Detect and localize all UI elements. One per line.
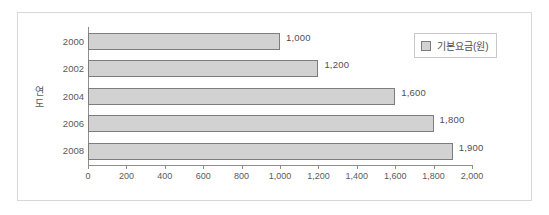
x-axis-tick-label: 1,000	[269, 171, 292, 181]
bar-value-label: 1,000	[286, 32, 311, 43]
bar[interactable]	[88, 115, 434, 132]
category-tick-label: 2004	[44, 91, 84, 102]
x-axis-tick	[242, 165, 243, 169]
x-axis-tick-label: 200	[119, 171, 134, 181]
category-tick-label: 2000	[44, 36, 84, 47]
x-axis-tick-label: 1,800	[422, 171, 445, 181]
bar-value-label: 1,800	[440, 114, 465, 125]
x-axis-tick-label: 1,600	[384, 171, 407, 181]
x-axis-tick-label: 600	[196, 171, 211, 181]
x-axis-tick	[434, 165, 435, 169]
x-axis-tick	[318, 165, 319, 169]
x-axis-tick	[165, 165, 166, 169]
x-axis-tick-label: 1,200	[307, 171, 330, 181]
bar[interactable]	[88, 88, 395, 105]
chart-figure: 연 도 20002002200420062008 1,0001,2001,600…	[0, 0, 549, 215]
bar-row: 1,600	[88, 83, 472, 110]
category-tick-label: 2002	[44, 63, 84, 74]
x-axis-tick	[395, 165, 396, 169]
bar[interactable]	[88, 143, 453, 160]
bar[interactable]	[88, 60, 318, 77]
bar-value-label: 1,200	[324, 59, 349, 70]
x-axis-tick	[203, 165, 204, 169]
legend-swatch-icon	[421, 41, 431, 51]
bar-row: 1,800	[88, 110, 472, 137]
x-axis-tick	[357, 165, 358, 169]
category-tick-label: 2008	[44, 145, 84, 156]
x-axis-tick-label: 2,000	[461, 171, 484, 181]
x-axis-tick-label: 800	[234, 171, 249, 181]
bar-value-label: 1,900	[459, 142, 484, 153]
x-axis-tick-label: 1,400	[346, 171, 369, 181]
legend-label: 기본요금(원)	[437, 38, 489, 53]
category-tick-label: 2006	[44, 118, 84, 129]
x-axis-tick	[280, 165, 281, 169]
bar[interactable]	[88, 33, 280, 50]
bar-row: 1,200	[88, 55, 472, 82]
x-axis-tick	[88, 165, 89, 169]
x-axis-tick	[472, 165, 473, 169]
bar-row: 1,900	[88, 138, 472, 165]
bar-value-label: 1,600	[401, 87, 426, 98]
x-axis-tick-label: 0	[85, 171, 90, 181]
x-axis-tick-label: 400	[157, 171, 172, 181]
x-axis-tick	[126, 165, 127, 169]
chart-legend[interactable]: 기본요금(원)	[414, 33, 497, 58]
